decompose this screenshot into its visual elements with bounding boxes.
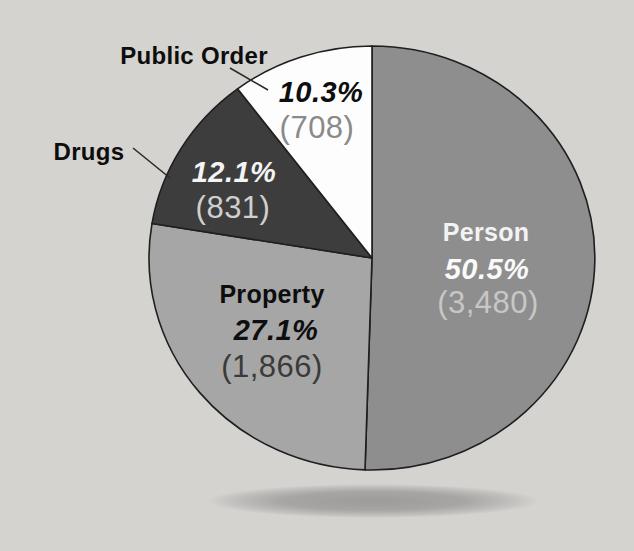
slice-count-property: (1,866) xyxy=(221,351,323,382)
slice-count-drugs: (831) xyxy=(196,192,271,223)
slice-pct-person: 50.5% xyxy=(445,255,530,284)
pie-chart: Public Order 10.3% (708) Drugs 12.1% (83… xyxy=(0,0,634,551)
slice-label-drugs: Drugs xyxy=(54,140,125,164)
slice-count-public-order: (708) xyxy=(280,112,355,143)
slice-count-person: (3,480) xyxy=(437,287,539,318)
pie-drop-shadow xyxy=(207,484,539,518)
drugs-leader-line xyxy=(133,148,170,178)
slice-pct-property: 27.1% xyxy=(234,316,319,345)
slice-label-person: Person xyxy=(443,220,530,245)
slice-label-public-order: Public Order xyxy=(120,44,268,68)
slice-pct-drugs: 12.1% xyxy=(192,158,277,187)
pie-slice-property xyxy=(149,224,372,470)
slice-pct-public-order: 10.3% xyxy=(279,78,364,107)
slice-label-property: Property xyxy=(219,282,324,307)
